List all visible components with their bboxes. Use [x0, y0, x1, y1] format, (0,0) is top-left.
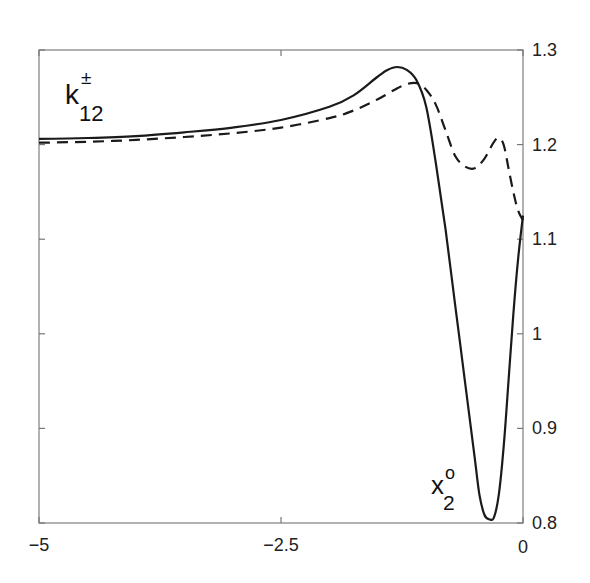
annotation-k12-superscript: ±: [81, 67, 91, 88]
y-tick-label: 1.3: [532, 40, 557, 60]
x-tick-label: 0: [518, 537, 528, 557]
annotations: k±12xo2: [65, 67, 455, 514]
y-tick-label: 0.8: [532, 513, 557, 533]
annotation-k12-subscript: 12: [79, 101, 103, 126]
y-tick-label: 1.2: [532, 135, 557, 155]
y-tick-label: 0.9: [532, 418, 557, 438]
data-series: [39, 67, 523, 520]
line-chart: 0.80.911.11.21.3−5−2.50 k±12xo2: [0, 0, 590, 583]
series-solid-line: [39, 67, 523, 520]
annotation-k12-main: k: [65, 79, 80, 110]
y-tick-label: 1.1: [532, 229, 557, 249]
annotation-x2-subscript: 2: [443, 491, 455, 514]
series-dashed-line: [39, 83, 523, 220]
y-tick-label: 1: [532, 324, 542, 344]
x-tick-label: −5: [29, 535, 50, 555]
annotation-x2-superscript: o: [445, 463, 455, 483]
x-tick-label: −2.5: [263, 535, 299, 555]
